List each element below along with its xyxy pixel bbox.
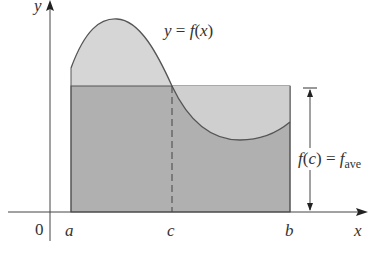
fave-label: f(c) = fave	[298, 149, 361, 171]
dimension-arrow-up-icon	[307, 89, 313, 97]
x-axis-label: x	[353, 221, 362, 240]
tick-label-a: a	[65, 221, 74, 240]
tick-label-b: b	[285, 221, 294, 240]
tick-label-c: c	[167, 221, 175, 240]
mvt-integral-diagram: y x 0 a c b y = f(x) f(c) = fave	[0, 0, 390, 255]
curve-label: y = f(x)	[162, 21, 213, 40]
dimension-arrow-down-icon	[307, 203, 313, 211]
y-axis-label: y	[32, 0, 42, 15]
origin-label: 0	[35, 220, 44, 239]
